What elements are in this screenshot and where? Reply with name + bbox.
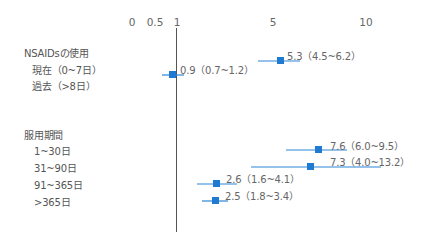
value-label-past: 0.9（0.7~1.2） [180,62,254,77]
value-label-1-30: 7.6（6.0~9.5） [330,138,404,153]
forest-plot [0,0,430,242]
value-label-over-365: 2.5（1.8~3.4） [225,188,299,203]
value-label-current: 5.3（4.5~6.2） [287,48,361,63]
value-label-31-90: 7.3（4.0~13.2） [330,154,410,169]
value-label-91-365: 2.6（1.6~4.1） [226,171,300,186]
